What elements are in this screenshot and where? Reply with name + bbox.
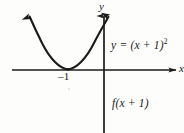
transform-caption-label: f(x + 1) <box>112 98 149 110</box>
graph-figure: y x –1 y = (x + 1)2 f(x + 1) <box>0 0 184 133</box>
equation-exponent: 2 <box>164 37 168 46</box>
x-axis-label: x <box>179 63 184 74</box>
parabola-right-branch <box>68 17 108 70</box>
equation-base: y = (x + 1) <box>111 39 164 51</box>
scan-speck <box>68 88 70 90</box>
parabola-left-branch <box>30 17 68 70</box>
x-intercept-tick-label: –1 <box>58 71 69 82</box>
curve-equation-label: y = (x + 1)2 <box>111 40 168 52</box>
coordinate-plane-drawing <box>0 0 184 133</box>
y-axis-label: y <box>99 1 104 12</box>
